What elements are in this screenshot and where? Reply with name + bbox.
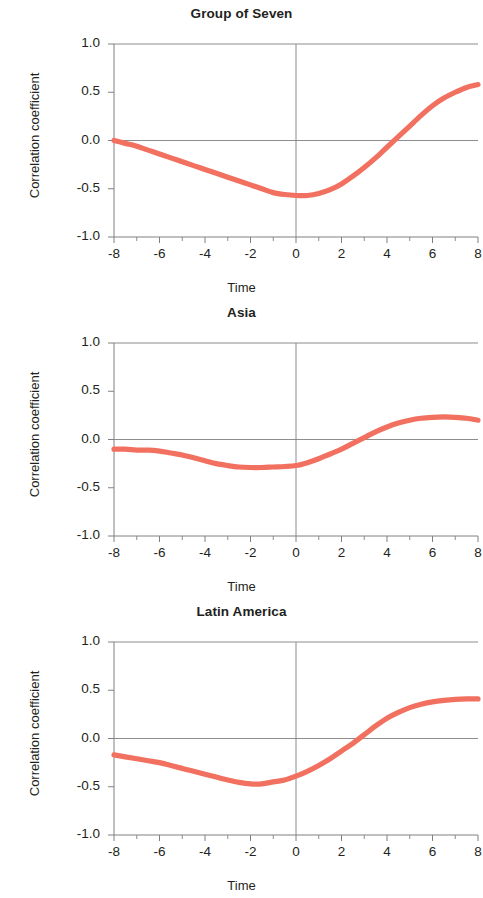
x-tick-label: 6 (420, 246, 446, 261)
y-tick-label: 0.0 (48, 431, 100, 446)
y-tick-label: 0.5 (48, 681, 100, 696)
x-tick-label: 8 (465, 844, 483, 859)
x-tick-label: -8 (101, 844, 127, 859)
x-tick-label: -4 (192, 545, 218, 560)
x-axis-label: Time (0, 579, 483, 594)
x-tick-label: -8 (101, 246, 127, 261)
chart-panel-group-of-seven: Group of Seven Correlation coefficient T… (0, 0, 483, 299)
y-tick-label: 0.5 (48, 83, 100, 98)
y-tick-label: -0.5 (48, 180, 100, 195)
y-tick-label: 1.0 (48, 35, 100, 50)
x-tick-label: -6 (147, 545, 173, 560)
x-tick-label: 4 (374, 844, 400, 859)
y-tick-label: 1.0 (48, 334, 100, 349)
x-axis-label: Time (0, 280, 483, 295)
x-tick-label: 8 (465, 246, 483, 261)
x-tick-label: 0 (283, 844, 309, 859)
x-tick-label: 8 (465, 545, 483, 560)
x-tick-label: 0 (283, 246, 309, 261)
x-tick-label: -2 (238, 545, 264, 560)
y-tick-label: 0.0 (48, 132, 100, 147)
y-tick-label: -0.5 (48, 778, 100, 793)
y-tick-label: -1.0 (48, 228, 100, 243)
chart-panel-latin-america: Latin America Correlation coefficient Ti… (0, 598, 483, 897)
y-tick-label: 0.0 (48, 730, 100, 745)
x-tick-label: -2 (238, 246, 264, 261)
y-tick-label: 0.5 (48, 382, 100, 397)
x-tick-label: 6 (420, 545, 446, 560)
y-tick-label: -1.0 (48, 826, 100, 841)
x-tick-label: 2 (329, 545, 355, 560)
y-tick-label: -0.5 (48, 479, 100, 494)
x-tick-label: -6 (147, 844, 173, 859)
x-tick-label: 4 (374, 246, 400, 261)
x-tick-label: -2 (238, 844, 264, 859)
x-tick-label: -8 (101, 545, 127, 560)
x-axis-label: Time (0, 878, 483, 893)
x-tick-label: -4 (192, 246, 218, 261)
x-tick-label: -6 (147, 246, 173, 261)
x-tick-label: 0 (283, 545, 309, 560)
x-tick-label: 2 (329, 246, 355, 261)
y-tick-label: 1.0 (48, 633, 100, 648)
y-tick-label: -1.0 (48, 527, 100, 542)
x-tick-label: -4 (192, 844, 218, 859)
x-tick-label: 2 (329, 844, 355, 859)
figure-root: Group of Seven Correlation coefficient T… (0, 0, 483, 898)
chart-panel-asia: Asia Correlation coefficient Time 1.00.5… (0, 299, 483, 598)
x-tick-label: 4 (374, 545, 400, 560)
x-tick-label: 6 (420, 844, 446, 859)
